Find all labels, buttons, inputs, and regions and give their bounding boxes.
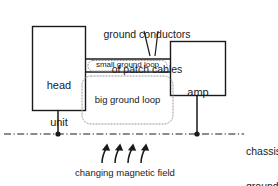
head-unit-label: head unit [32,54,86,153]
head-unit-label-line2: unit [32,116,86,128]
ground-loop-diagram: ground conductors of patch cables head u… [0,0,278,186]
changing-magnetic-field-label: changing magnetic field [62,168,188,179]
head-unit-label-line1: head [32,79,86,91]
magnetic-field-arrow-1 [102,145,109,163]
magnetic-field-arrows [102,145,148,163]
magnetic-field-arrow-2 [115,145,122,163]
magnetic-field-arrow-4 [141,145,148,163]
chassis-ground-label-line2: ground [246,181,278,186]
chassis-ground-label: chassis ground [246,122,278,186]
patch-cable-callout-line1: ground conductors [86,29,208,41]
amp-label: amp [170,61,226,123]
chassis-ground-label-line1: chassis [246,146,278,158]
magnetic-field-arrow-3 [128,145,135,163]
big-ground-loop-label: big ground loop [82,95,173,106]
small-ground-loop-label: small ground loop [88,61,167,70]
amp-label-line1: amp [170,86,226,98]
amp-ground-node [194,131,199,136]
